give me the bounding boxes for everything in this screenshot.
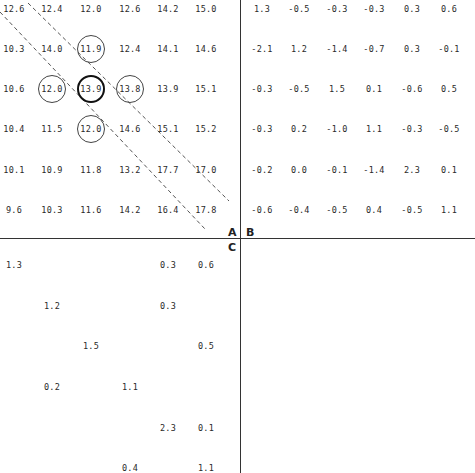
highlight-circle [116, 75, 144, 103]
grid-cell: 1.1 [113, 382, 147, 392]
grid-cell: 17.0 [189, 165, 223, 175]
grid-cell: -0.6 [395, 84, 429, 94]
grid-cell: 0.2 [35, 382, 69, 392]
grid-cell: 14.1 [151, 44, 185, 54]
grid-cell: -0.1 [320, 165, 354, 175]
grid-cell: 0.6 [189, 260, 223, 270]
grid-cell: -1.4 [320, 44, 354, 54]
highlight-circle [77, 115, 105, 143]
grid-cell: -0.3 [320, 4, 354, 14]
grid-cell: 12.4 [113, 44, 147, 54]
grid-cell: -0.3 [245, 84, 279, 94]
grid-cell: 12.6 [0, 4, 31, 14]
grid-cell: 13.2 [113, 165, 147, 175]
grid-cell: 14.2 [151, 4, 185, 14]
grid-cell: 15.1 [151, 124, 185, 134]
grid-cell: 14.0 [35, 44, 69, 54]
grid-cell: 12.4 [35, 4, 69, 14]
grid-cell: 12.0 [74, 4, 108, 14]
grid-cell: 11.6 [74, 205, 108, 215]
grid-cell: 9.6 [0, 205, 31, 215]
grid-cell: 0.1 [432, 165, 466, 175]
grid-cell: 1.5 [320, 84, 354, 94]
grid-cell: 0.6 [432, 4, 466, 14]
grid-cell: 17.8 [189, 205, 223, 215]
grid-cell: 0.1 [357, 84, 391, 94]
highlight-circle [77, 35, 105, 63]
grid-cell: 0.5 [432, 84, 466, 94]
grid-cell: 0.3 [395, 4, 429, 14]
grid-cell: 0.1 [189, 423, 223, 433]
grid-cell: -0.7 [357, 44, 391, 54]
grid-cell: 17.7 [151, 165, 185, 175]
grid-cell: -0.5 [395, 205, 429, 215]
grid-cell: 10.4 [0, 124, 31, 134]
grid-cell: 1.1 [189, 463, 223, 473]
grid-cell: -0.3 [245, 124, 279, 134]
grid-cell: 10.6 [0, 84, 31, 94]
grid-cell: -0.5 [282, 4, 316, 14]
grid-cell: -0.4 [282, 205, 316, 215]
grid-cell: 11.8 [74, 165, 108, 175]
vertical-divider [240, 0, 241, 473]
highlight-circle-bold [77, 75, 105, 103]
grid-cell: 1.3 [0, 260, 31, 270]
grid-cell: 0.4 [357, 205, 391, 215]
quadrant-label-b: B [246, 226, 254, 239]
grid-cell: 15.0 [189, 4, 223, 14]
grid-cell: 0.2 [282, 124, 316, 134]
grid-cell: 10.3 [0, 44, 31, 54]
grid-cell: 10.1 [0, 165, 31, 175]
grid-cell: 14.2 [113, 205, 147, 215]
grid-cell: 2.3 [151, 423, 185, 433]
grid-cell: 0.3 [151, 260, 185, 270]
highlight-circle [38, 75, 66, 103]
quadrant-label-a: A [228, 226, 237, 239]
grid-cell: 10.3 [35, 205, 69, 215]
grid-cell: 0.5 [189, 341, 223, 351]
grid-cell: 0.3 [395, 44, 429, 54]
grid-cell: 1.2 [35, 301, 69, 311]
grid-cell: 0.0 [282, 165, 316, 175]
grid-cell: -1.4 [357, 165, 391, 175]
grid-cell: -0.5 [432, 124, 466, 134]
quadrant-label-c: C [228, 241, 236, 254]
grid-cell: 1.1 [357, 124, 391, 134]
grid-cell: 16.4 [151, 205, 185, 215]
grid-cell: 0.4 [113, 463, 147, 473]
grid-cell: -0.6 [245, 205, 279, 215]
grid-cell: -0.5 [320, 205, 354, 215]
grid-cell: -0.5 [282, 84, 316, 94]
grid-cell: 1.5 [74, 341, 108, 351]
diagonal-band-lines [0, 0, 475, 473]
grid-cell: -0.2 [245, 165, 279, 175]
grid-cell: 15.1 [189, 84, 223, 94]
grid-cell: 10.9 [35, 165, 69, 175]
grid-cell: 14.6 [189, 44, 223, 54]
grid-cell: 12.6 [113, 4, 147, 14]
grid-cell: 14.6 [113, 124, 147, 134]
grid-cell: 11.5 [35, 124, 69, 134]
grid-cell: -0.3 [357, 4, 391, 14]
grid-cell: 13.9 [151, 84, 185, 94]
grid-cell: 1.3 [245, 4, 279, 14]
grid-cell: -2.1 [245, 44, 279, 54]
grid-cell: 2.3 [395, 165, 429, 175]
grid-cell: -1.0 [320, 124, 354, 134]
grid-cell: 1.1 [432, 205, 466, 215]
grid-cell: -0.1 [432, 44, 466, 54]
grid-cell: 1.2 [282, 44, 316, 54]
grid-cell: 15.2 [189, 124, 223, 134]
grid-cell: 0.3 [151, 301, 185, 311]
grid-cell: -0.3 [395, 124, 429, 134]
horizontal-divider [0, 238, 475, 239]
